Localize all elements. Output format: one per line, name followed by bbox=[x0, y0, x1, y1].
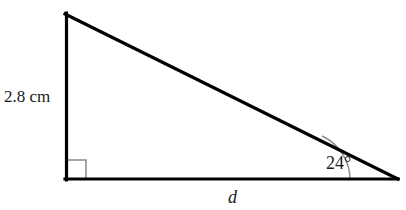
vertical-side-label: 2.8 cm bbox=[4, 87, 50, 106]
right-angle-marker bbox=[66, 160, 86, 180]
angle-label: 24° bbox=[326, 153, 351, 173]
triangle-figure: 2.8 cm d 24° bbox=[0, 0, 406, 210]
base-side-label: d bbox=[228, 187, 238, 207]
geometry-diagram: 2.8 cm d 24° bbox=[0, 0, 406, 210]
